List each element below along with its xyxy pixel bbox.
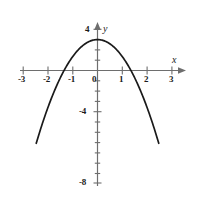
y-axis-name: y xyxy=(103,24,107,34)
parabola-plot xyxy=(0,0,197,200)
y-axis xyxy=(94,22,101,186)
x-axis xyxy=(20,67,186,74)
x-tick-label--3: -3 xyxy=(18,75,25,84)
y-tick-label--8: -8 xyxy=(79,178,86,187)
x-axis-name: x xyxy=(172,55,176,65)
x-tick-label-3: 3 xyxy=(169,75,173,84)
x-tick-label-1: 1 xyxy=(119,75,123,84)
x-tick-label-2: 2 xyxy=(144,75,148,84)
x-tick-label-0: 0 xyxy=(92,75,96,84)
y-tick-label--4: -4 xyxy=(79,107,86,116)
y-tick-label-4: 4 xyxy=(85,25,89,34)
x-tick-label--2: -2 xyxy=(43,75,50,84)
x-tick-label--1: -1 xyxy=(68,75,75,84)
graph-figure: -3 -2 -1 0 1 2 3 4 -4 -8 y x xyxy=(0,0,197,200)
